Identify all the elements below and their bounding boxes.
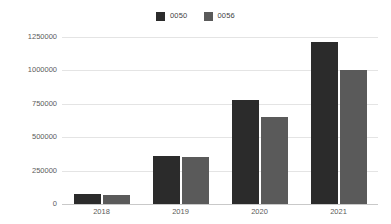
legend-label: 0056 <box>218 12 236 20</box>
x-axis-tick-label: 2020 <box>251 208 268 216</box>
y-axis-tick-label: 1250000 <box>28 33 57 41</box>
y-axis-tick-label: 250000 <box>32 167 57 175</box>
bar-group <box>153 37 209 204</box>
bars-layer <box>62 37 378 204</box>
x-axis-tick-label: 2019 <box>172 208 189 216</box>
bar[interactable] <box>153 156 180 204</box>
bar-group <box>232 37 288 204</box>
bar[interactable] <box>232 100 259 204</box>
legend-swatch-icon <box>204 12 213 21</box>
legend-entry[interactable]: 0050 <box>156 12 188 21</box>
chart-legend: 00500056 <box>0 9 391 23</box>
legend-label: 0050 <box>170 12 188 20</box>
bar[interactable] <box>340 70 367 204</box>
legend-entry[interactable]: 0056 <box>204 12 236 21</box>
plot-area <box>62 37 378 204</box>
bar[interactable] <box>311 42 338 204</box>
y-axis-tick-label: 0 <box>53 200 57 208</box>
y-axis-tick-label: 500000 <box>32 133 57 141</box>
bar[interactable] <box>103 195 130 204</box>
bar-group <box>311 37 367 204</box>
y-axis-tick-label: 750000 <box>32 100 57 108</box>
bar[interactable] <box>74 194 101 204</box>
bar-chart: 00500056 0250000500000750000100000012500… <box>0 0 391 224</box>
bar[interactable] <box>182 157 209 204</box>
x-axis-tick-labels: 2018201920202021 <box>62 205 378 221</box>
x-axis-tick-label: 2021 <box>330 208 347 216</box>
bar-group <box>74 37 130 204</box>
legend-swatch-icon <box>156 12 165 21</box>
y-axis-tick-label: 1000000 <box>28 67 57 75</box>
bar[interactable] <box>261 117 288 204</box>
x-axis-tick-label: 2018 <box>93 208 110 216</box>
